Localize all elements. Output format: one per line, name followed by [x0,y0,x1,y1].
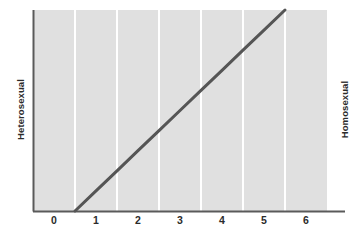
kinsey-scale-chart: 0123456 Heterosexual Homosexual [0,0,363,240]
plot-canvas [0,0,363,240]
axis-endpoint-label-homosexual: Homosexual [339,72,350,148]
axis-endpoint-label-heterosexual: Heterosexual [15,72,26,148]
